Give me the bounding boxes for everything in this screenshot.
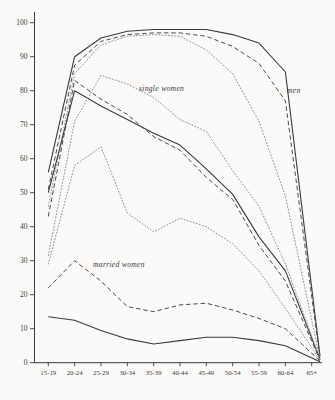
labor-force-participation-figure: 010203040506070809010015-1920-2425-2930-…: [0, 0, 335, 400]
y-tick-label: 50: [20, 188, 28, 197]
annotation-single-women: single women: [139, 84, 184, 93]
y-tick-label: 30: [20, 256, 28, 265]
x-tick-label: 15-19: [40, 369, 56, 376]
annotation-men: men: [287, 86, 301, 95]
y-tick-label: 80: [20, 86, 28, 95]
y-tick-label: 70: [20, 120, 28, 129]
x-tick-label: 65+: [306, 369, 317, 376]
y-tick-label: 20: [20, 290, 28, 299]
x-tick-label: 35-39: [146, 369, 162, 376]
paper-background: [0, 0, 335, 400]
y-tick-label: 60: [20, 154, 28, 163]
y-tick-label: 100: [16, 18, 28, 27]
y-tick-label: 90: [20, 52, 28, 61]
x-tick-label: 30-34: [119, 369, 135, 376]
y-tick-label: 10: [20, 324, 28, 333]
annotation-married-women: married women: [93, 260, 145, 269]
x-tick-label: 55-59: [251, 369, 267, 376]
y-tick-label: 0: [24, 358, 28, 367]
participation-line-chart: 010203040506070809010015-1920-2425-2930-…: [0, 0, 335, 400]
x-tick-label: 40-44: [172, 369, 188, 376]
x-tick-label: 60-64: [277, 369, 293, 376]
x-tick-label: 50-54: [225, 369, 241, 376]
x-tick-label: 20-24: [67, 369, 83, 376]
y-tick-label: 40: [20, 222, 28, 231]
x-tick-label: 45-49: [198, 369, 214, 376]
x-tick-label: 25-29: [93, 369, 109, 376]
